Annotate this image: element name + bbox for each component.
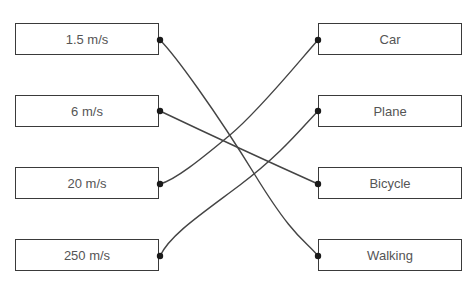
connection-20-car[interactable] <box>160 40 318 184</box>
left-dot-icon[interactable] <box>157 108 163 114</box>
connection-6-bicycle[interactable] <box>160 111 318 184</box>
right-dot-icon[interactable] <box>315 37 321 43</box>
right-dot-icon[interactable] <box>315 253 321 259</box>
left-dot-icon[interactable] <box>157 181 163 187</box>
left-dot-icon[interactable] <box>157 253 163 259</box>
right-dot-icon[interactable] <box>315 108 321 114</box>
connection-250-plane[interactable] <box>160 111 318 256</box>
left-dot-icon[interactable] <box>157 37 163 43</box>
connection-lines <box>0 0 474 287</box>
right-dot-icon[interactable] <box>315 181 321 187</box>
